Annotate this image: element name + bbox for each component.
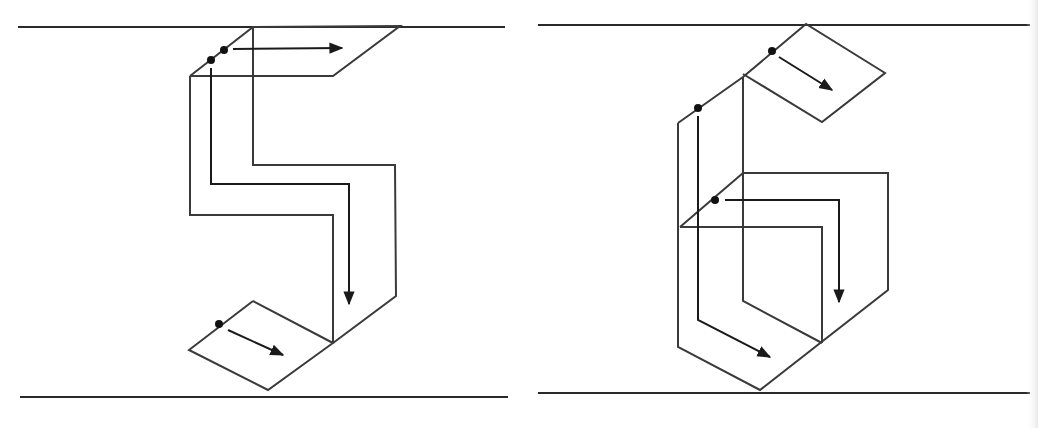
stroke-direction-arrow: [779, 57, 832, 90]
numeral-outline-segment: [680, 227, 822, 343]
numeral-outline-segment: [678, 123, 888, 390]
stroke-direction-arrow: [698, 116, 770, 357]
stroke-start-dot: [694, 104, 702, 112]
stroke-direction-arrow: [228, 330, 283, 355]
page-edge-shadow: [1026, 0, 1038, 428]
stroke-start-dot: [207, 56, 215, 64]
numeral-5-panel: [18, 26, 508, 397]
stroke-start-dot: [711, 196, 719, 204]
stroke-start-dot: [768, 47, 776, 55]
stroke-start-dot: [220, 46, 228, 54]
stroke-direction-arrow: [233, 48, 342, 49]
numeral-outline-segment: [743, 77, 822, 343]
numeral-outline-segment: [678, 24, 885, 123]
numeral-6-panel: [538, 24, 1030, 393]
stroke-start-dot: [215, 320, 223, 328]
stroke-direction-arrow: [211, 68, 349, 304]
stroke-order-diagram: [0, 0, 1038, 428]
